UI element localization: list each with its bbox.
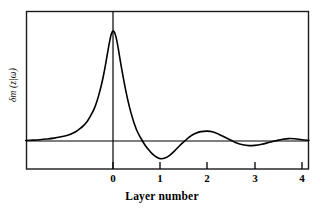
chart-figure: δm (z|ω) 0 1 2 3 4 Layer number [0, 0, 324, 213]
x-tick-label-4: 4 [292, 172, 312, 184]
x-axis-ticks [113, 162, 302, 169]
plot-frame [27, 12, 309, 170]
x-tick-label-0: 0 [103, 172, 123, 184]
x-tick-label-3: 3 [245, 172, 265, 184]
x-tick-label-1: 1 [150, 172, 170, 184]
data-curve [26, 31, 309, 159]
x-axis-title: Layer number [0, 190, 324, 202]
x-tick-label-2: 2 [197, 172, 217, 184]
